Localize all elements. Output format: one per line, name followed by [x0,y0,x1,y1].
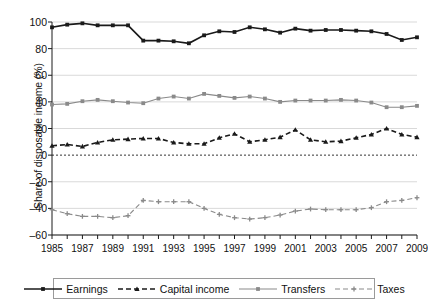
chart-legend: EarningsCapital incomeTransfersTaxes [53,278,375,299]
plot-area: –60–40–200204060801001985198719891991199… [52,22,417,235]
legend-swatch-square-icon [238,283,278,295]
x-tick-label: 1997 [223,243,245,254]
chart-canvas [52,22,417,235]
x-tick-label: 1989 [102,243,124,254]
legend-entry-taxes[interactable]: Taxes [334,283,404,295]
y-tick-label: –60 [29,229,47,241]
y-tick-label: 0 [41,149,47,161]
y-tick-label: 40 [35,96,47,108]
y-tick-label: 100 [29,16,47,28]
x-tick-label: 1999 [254,243,276,254]
series-capital-income [49,126,419,149]
legend-swatch-square-icon [23,283,63,295]
legend-label: Taxes [377,283,404,295]
x-tick-label: 1993 [163,243,185,254]
x-tick-label: 1987 [71,243,93,254]
y-tick-label: –40 [29,202,47,214]
x-tick-label: 1995 [193,243,215,254]
y-tick-label: 20 [35,123,47,135]
legend-swatch-triangle-icon [117,283,157,295]
x-tick-label: 2003 [315,243,337,254]
y-tick-label: 80 [35,43,47,55]
legend-entry-capital-income[interactable]: Capital income [117,283,229,295]
legend-label: Transfers [281,283,325,295]
x-tick-label: 1985 [41,243,63,254]
x-tick-label: 2007 [375,243,397,254]
series-transfers [50,92,419,109]
x-tick-label: 1991 [132,243,154,254]
x-tick-label: 2009 [406,243,428,254]
legend-swatch-plus-icon [334,283,374,295]
legend-entry-transfers[interactable]: Transfers [238,283,325,295]
y-tick-label: 60 [35,69,47,81]
y-tick-label: –20 [29,176,47,188]
legend-label: Capital income [160,283,229,295]
series-earnings [50,21,419,45]
x-tick-label: 2001 [284,243,306,254]
legend-label: Earnings [66,283,107,295]
x-tick-label: 2005 [345,243,367,254]
legend-entry-earnings[interactable]: Earnings [23,283,107,295]
